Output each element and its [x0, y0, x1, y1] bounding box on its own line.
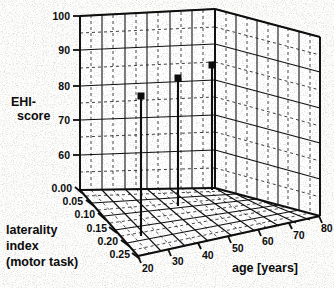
xtick-80: 80	[321, 222, 333, 234]
ztick-70: 70	[58, 114, 70, 126]
xtick-20: 20	[142, 262, 154, 274]
yaxis-label-line2: index	[6, 239, 39, 253]
xaxis-label: age [years]	[232, 261, 298, 275]
zaxis-label-line1: EHI-	[11, 95, 36, 109]
xtick-30: 30	[172, 255, 184, 267]
ytick-010: 0.10	[75, 208, 96, 220]
ztick-60: 60	[58, 149, 70, 161]
ztick-80: 80	[58, 80, 70, 92]
yaxis-label-line3: (motor task)	[6, 255, 78, 269]
ytick-025: 0.25	[110, 248, 131, 260]
xtick-40: 40	[202, 249, 214, 261]
tick-labels-vertical: 100 90 80 70 60	[52, 10, 70, 161]
figure-3d-scatter: 100 90 80 70 60 0.00 0.05 0.10 0.15 0.20…	[0, 0, 334, 288]
ytick-020: 0.20	[98, 235, 119, 247]
ytick-015: 0.15	[87, 222, 108, 234]
ztick-90: 90	[58, 44, 70, 56]
ztick-100: 100	[52, 10, 70, 22]
ytick-000: 0.00	[52, 182, 73, 194]
ytick-005: 0.05	[63, 195, 84, 207]
panel-back-right	[215, 9, 320, 216]
zaxis-label-line2: score	[17, 109, 50, 123]
yaxis-label-line1: laterality	[6, 223, 57, 237]
xtick-50: 50	[232, 242, 244, 254]
xtick-70: 70	[293, 229, 305, 241]
plot-canvas: 100 90 80 70 60 0.00 0.05 0.10 0.15 0.20…	[0, 0, 334, 288]
xtick-60: 60	[262, 235, 274, 247]
